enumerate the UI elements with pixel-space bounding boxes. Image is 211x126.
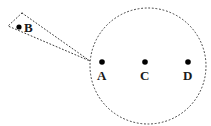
point-label-d: D [183, 69, 192, 82]
figure-vector-layer [0, 0, 211, 126]
point-dot-a [99, 59, 105, 65]
point-label-b: B [24, 21, 33, 34]
point-label-a: A [97, 69, 106, 82]
point-dot-c [142, 59, 148, 65]
dotted-circle [90, 8, 206, 124]
point-dot-b [16, 24, 21, 29]
figure-canvas: B A C D [0, 0, 211, 126]
dotted-wedge [8, 13, 90, 61]
point-label-c: C [140, 69, 149, 82]
point-dot-d [185, 59, 191, 65]
